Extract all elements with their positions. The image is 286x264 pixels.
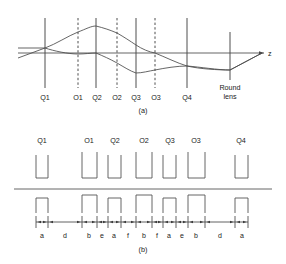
panel-a-label-round-lens-line1: Round xyxy=(219,83,240,92)
panel-b-dim-label-3: e xyxy=(100,232,104,239)
panel-b-label-q3: Q3 xyxy=(165,136,175,145)
panel-b-lower-pole-q4 xyxy=(235,198,248,213)
panel-b-upper-pole-q2 xyxy=(108,155,121,178)
panel-b-lower-pole-o2 xyxy=(136,195,152,213)
panel-a-label-q3: Q3 xyxy=(131,93,141,102)
panel-b-caption: (b) xyxy=(139,245,148,254)
panel-a-ray-upper xyxy=(18,26,262,70)
panel-b-label-o1: O1 xyxy=(84,136,94,145)
panel-b-dim-label-8: a xyxy=(167,232,171,239)
panel-b-lower-pole-o1 xyxy=(82,195,97,213)
panel-b-dim-label-6: b xyxy=(142,232,146,239)
panel-b-label-q4: Q4 xyxy=(236,136,246,145)
panel-b-lower-pole-q1 xyxy=(36,198,48,213)
panel-b-dim-label-9: e xyxy=(180,232,184,239)
panel-b-dim-label-1: d xyxy=(63,232,67,239)
panel-b-upper-pole-q3 xyxy=(163,155,176,178)
panel-a: z Q1 O1 Q2 O2 Q3 O3 Q4 Round lens (a) xyxy=(18,18,272,115)
optics-figure-svg: z Q1 O1 Q2 O2 Q3 O3 Q4 Round lens (a) Q1… xyxy=(0,0,286,264)
panel-b-dim-label-4: a xyxy=(112,232,116,239)
panel-a-label-o2: O2 xyxy=(112,93,122,102)
panel-b-label-o2: O2 xyxy=(139,136,149,145)
panel-b-upper-pole-q4 xyxy=(235,155,248,178)
panel-b-dim-label-10: b xyxy=(194,232,198,239)
panel-a-ray-lower xyxy=(18,48,262,73)
panel-b-dim-label-12: a xyxy=(240,232,244,239)
panel-b-dim-label-2: b xyxy=(87,232,91,239)
panel-b-label-o3: O3 xyxy=(191,136,201,145)
panel-b: Q1 O1 Q2 O2 Q3 O3 Q4 xyxy=(14,136,272,254)
panel-b-lower-pole-q2 xyxy=(108,198,121,213)
panel-b-dim-label-0: a xyxy=(40,232,44,239)
panel-a-label-o3: O3 xyxy=(151,93,161,102)
panel-a-label-round-lens-line2: lens xyxy=(223,92,237,101)
panel-a-label-q2: Q2 xyxy=(92,93,102,102)
panel-a-label-o1: O1 xyxy=(73,93,83,102)
panel-b-upper-pole-o3 xyxy=(188,152,205,178)
panel-b-lower-pole-q3 xyxy=(163,198,176,213)
panel-b-dim-label-5: f xyxy=(127,232,129,239)
panel-b-label-q2: Q2 xyxy=(110,136,120,145)
panel-b-upper-pole-o1 xyxy=(82,152,97,178)
panel-a-caption: (a) xyxy=(139,106,148,115)
panel-b-lower-pole-o3 xyxy=(188,195,205,213)
panel-a-label-q4: Q4 xyxy=(182,93,192,102)
figure-root: z Q1 O1 Q2 O2 Q3 O3 Q4 Round lens (a) Q1… xyxy=(0,0,286,264)
panel-b-upper-pole-q1 xyxy=(36,155,48,178)
panel-a-axis-label: z xyxy=(268,49,272,58)
panel-b-dim-label-11: d xyxy=(218,232,222,239)
panel-b-dim-label-7: f xyxy=(156,232,158,239)
panel-b-label-q1: Q1 xyxy=(37,136,47,145)
panel-a-label-q1: Q1 xyxy=(40,93,50,102)
panel-b-upper-pole-o2 xyxy=(136,152,152,178)
